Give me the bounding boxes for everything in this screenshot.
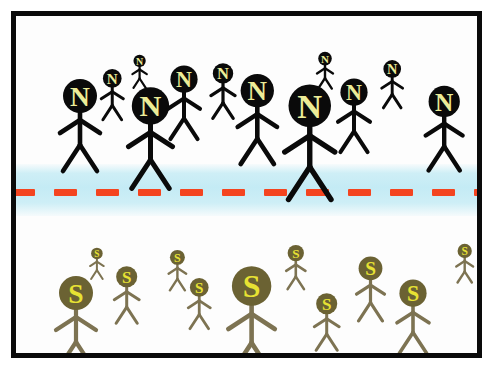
figure-leg-left	[383, 94, 392, 108]
figure-leg-right	[392, 94, 401, 108]
figure-head-letter: S	[462, 245, 468, 258]
figure-head-letter: N	[247, 76, 267, 106]
figure-head-letter: N	[435, 87, 453, 115]
figure-arm-right	[444, 123, 462, 135]
figure-leg-right	[97, 270, 103, 279]
figure-head-letter: S	[243, 269, 261, 304]
figure-leg-left	[399, 332, 413, 353]
picture-frame: NNNNNNNNNNNN SSSSSSSSSSS	[11, 11, 482, 358]
border-dash	[432, 189, 455, 196]
figure-arm-right	[76, 317, 96, 330]
figure-arm-right	[354, 111, 370, 121]
border-dash	[16, 189, 35, 196]
figure-head-letter: S	[365, 258, 376, 279]
figure-arm-right	[370, 285, 384, 294]
illustration-canvas: NNNNNNNNNNNN SSSSSSSSSSS	[0, 0, 495, 371]
figure-leg-left	[63, 145, 80, 171]
figure-arm-right	[140, 70, 147, 75]
figure-arm-left	[315, 319, 327, 327]
figure-leg-left	[458, 272, 465, 283]
figure-leg-right	[76, 342, 93, 358]
figure-leg-left	[316, 334, 327, 350]
figure-leg-right	[327, 334, 338, 350]
figure-arm-left	[397, 312, 413, 322]
figure-head-letter: N	[107, 70, 118, 86]
figure-leg-left	[170, 118, 184, 139]
figure-arm-left	[60, 120, 80, 133]
figure-leg-left	[358, 302, 370, 320]
figure-leg-left	[428, 146, 444, 170]
figure-leg-left	[240, 139, 257, 164]
figure-arm-left	[188, 300, 199, 307]
figure-head-letter: N	[387, 61, 398, 77]
figure-arm-right	[97, 261, 104, 265]
figure-head-letter: S	[292, 246, 299, 261]
figure-head-letter: S	[94, 248, 99, 258]
figure-arm-right	[252, 314, 275, 329]
figure-leg-left	[116, 307, 127, 323]
figure-s-3: S	[105, 265, 148, 333]
figure-n-11: N	[374, 59, 410, 116]
figure-arm-left	[338, 111, 354, 121]
figure-leg-right	[413, 332, 427, 353]
figure-leg-right	[370, 302, 382, 320]
figure-leg-right	[199, 314, 208, 328]
figure-leg-right	[310, 167, 331, 200]
figure-arm-left	[229, 314, 252, 329]
figure-leg-left	[190, 314, 199, 328]
figure-head-letter: S	[174, 250, 181, 264]
figure-leg-right	[252, 343, 272, 358]
border-dash	[390, 189, 413, 196]
figure-head-letter: S	[195, 279, 203, 295]
figure-arm-left	[101, 91, 112, 98]
figure-leg-left	[289, 167, 310, 200]
figure-n-12: N	[412, 84, 476, 185]
figure-arm-left	[356, 285, 370, 294]
border-dashed-line	[16, 189, 477, 196]
figure-leg-left	[91, 270, 97, 279]
figure-arm-right	[184, 98, 200, 108]
figure-arm-left	[115, 292, 127, 300]
figure-leg-left	[288, 277, 296, 289]
figure-arm-left	[168, 268, 177, 274]
figure-leg-left	[131, 160, 150, 189]
border-dash	[222, 189, 245, 196]
figure-leg-left	[170, 279, 177, 290]
figure-leg-right	[354, 131, 368, 152]
border-dash	[474, 189, 477, 196]
figure-arm-right	[465, 261, 473, 266]
figure-arm-left	[285, 136, 310, 152]
figure-leg-right	[150, 160, 169, 189]
figure-s-7: S	[279, 244, 313, 297]
figure-arm-left	[382, 81, 392, 88]
figure-leg-right	[296, 277, 304, 289]
figure-leg-right	[184, 118, 198, 139]
figure-arm-left	[211, 87, 223, 95]
figure-leg-left	[232, 343, 252, 358]
figure-leg-right	[127, 307, 138, 323]
figure-head-letter: S	[407, 281, 419, 306]
figure-head-letter: N	[176, 67, 192, 92]
figure-s-8: S	[305, 292, 348, 358]
figure-arm-right	[413, 312, 429, 322]
figure-arm-right	[327, 319, 339, 327]
figure-head-letter: N	[70, 81, 90, 112]
figure-arm-left	[237, 115, 257, 128]
figure-leg-right	[80, 145, 97, 171]
border-dash	[54, 189, 77, 196]
figure-arm-right	[127, 292, 139, 300]
figure-arm-left	[56, 317, 76, 330]
figure-leg-left	[103, 105, 112, 119]
figure-head-letter: S	[322, 295, 332, 314]
figure-leg-right	[444, 146, 460, 170]
figure-s-11: S	[450, 243, 479, 289]
figure-leg-left	[340, 131, 354, 152]
figure-head-letter: S	[68, 278, 83, 309]
figure-head-letter: N	[321, 53, 329, 65]
figure-arm-left	[128, 132, 150, 146]
figure-head-letter: N	[346, 80, 362, 105]
figure-leg-left	[213, 102, 223, 118]
figure-s-10: S	[385, 278, 441, 358]
figure-head-letter: S	[122, 268, 132, 287]
figure-head-letter: N	[298, 88, 323, 126]
